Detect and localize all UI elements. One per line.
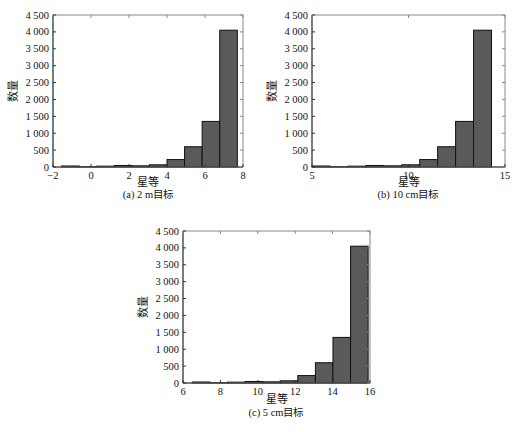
- y-tick-label: 4 500: [25, 10, 49, 21]
- x-tick-label: 16: [365, 386, 376, 397]
- x-tick-label: 10: [253, 386, 264, 397]
- panel-caption: (a) 2 m目标: [123, 189, 174, 201]
- x-tick-label: 6: [180, 386, 185, 397]
- histogram-panel-a: 05001 0001 5002 0002 5003 0003 5004 0004…: [7, 10, 246, 202]
- bar: [333, 337, 351, 383]
- x-tick-label: 4: [164, 170, 170, 181]
- histogram-panel-b: 05001 0001 5002 0002 5003 0003 5004 0004…: [266, 10, 510, 202]
- y-tick-label: 3 500: [155, 259, 179, 270]
- x-axis-label: 星等: [137, 175, 159, 188]
- y-tick-label: 2 500: [284, 77, 308, 88]
- y-tick-label: 4 000: [25, 26, 49, 37]
- bar: [315, 363, 333, 383]
- x-tick-label: −2: [47, 170, 58, 181]
- y-tick-label: 2 000: [284, 94, 308, 105]
- y-tick-label: 4 500: [284, 10, 308, 21]
- y-tick-label: 3 000: [155, 276, 179, 287]
- x-tick-label: 14: [327, 386, 338, 397]
- y-tick-label: 3 500: [284, 43, 308, 54]
- x-tick-label: 5: [309, 170, 314, 181]
- y-tick-label: 1 500: [284, 111, 308, 122]
- y-tick-label: 1 000: [155, 344, 179, 355]
- bar: [456, 121, 474, 167]
- y-axis-label: 数量: [137, 296, 149, 318]
- x-tick-label: 8: [218, 386, 223, 397]
- y-tick-label: 4 500: [155, 226, 179, 237]
- y-tick-label: 500: [292, 145, 308, 156]
- x-axis-label: 星等: [266, 392, 288, 405]
- y-tick-label: 1 500: [25, 111, 49, 122]
- bars: [62, 30, 238, 167]
- x-axis-label: 星等: [398, 175, 420, 188]
- y-tick-label: 3 000: [25, 60, 49, 71]
- bar: [298, 376, 316, 383]
- y-tick-label: 4 000: [284, 26, 308, 37]
- y-tick-label: 500: [163, 361, 179, 372]
- bar: [202, 121, 220, 167]
- bar: [220, 30, 238, 167]
- x-tick-label: 8: [240, 170, 245, 181]
- y-tick-label: 500: [33, 145, 49, 156]
- y-tick-label: 1 000: [284, 128, 308, 139]
- x-tick-label: 2: [126, 170, 131, 181]
- y-tick-label: 2 000: [25, 94, 49, 105]
- y-tick-label: 1 500: [155, 327, 179, 338]
- bar: [351, 246, 369, 383]
- y-tick-label: 0: [303, 162, 308, 173]
- y-tick-label: 2 500: [25, 77, 49, 88]
- bar: [167, 160, 185, 167]
- y-axis-label: 数量: [7, 80, 19, 102]
- y-axis-label: 数量: [266, 80, 278, 102]
- bars: [312, 30, 491, 167]
- bars: [192, 246, 368, 383]
- y-tick-label: 3 000: [284, 60, 308, 71]
- y-tick-label: 1 000: [25, 128, 49, 139]
- y-tick-label: 3 500: [25, 43, 49, 54]
- histogram-panel-c: 05001 0001 5002 0002 5003 0003 5004 0004…: [137, 226, 375, 420]
- y-tick-label: 0: [174, 378, 179, 389]
- bar: [185, 147, 203, 167]
- x-tick-label: 12: [290, 386, 301, 397]
- bar: [420, 160, 438, 167]
- bar: [438, 147, 456, 167]
- y-tick-label: 2 500: [155, 293, 179, 304]
- bar: [474, 30, 492, 167]
- x-tick-label: 0: [88, 170, 93, 181]
- x-tick-label: 6: [202, 170, 207, 181]
- panel-caption: (c) 5 cm目标: [249, 407, 305, 419]
- x-tick-label: 15: [500, 170, 511, 181]
- y-tick-label: 2 000: [155, 310, 179, 321]
- panel-caption: (b) 10 cm目标: [378, 189, 440, 201]
- y-tick-label: 4 000: [155, 242, 179, 253]
- chart-canvas: 05001 0001 5002 0002 5003 0003 5004 0004…: [0, 0, 514, 437]
